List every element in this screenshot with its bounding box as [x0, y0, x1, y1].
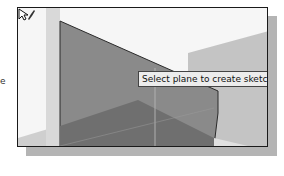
graphics-viewport[interactable]: Select plane to create sketch or an [17, 7, 268, 147]
select-plane-cursor-icon [18, 8, 36, 22]
tooltip: Select plane to create sketch or an [138, 71, 268, 87]
side-label: e [0, 76, 6, 86]
left-plane-edge [46, 8, 60, 146]
